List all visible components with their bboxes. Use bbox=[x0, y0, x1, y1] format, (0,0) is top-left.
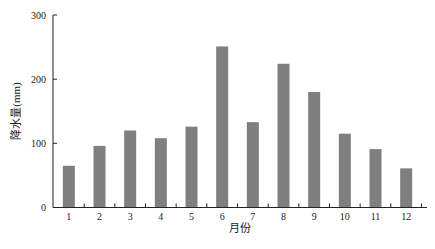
x-tick-label: 12 bbox=[401, 211, 411, 222]
bar-chart: 0100200300 123456789101112 月份 降水量(mm) bbox=[0, 0, 435, 249]
bar-month-12 bbox=[400, 168, 412, 207]
bars-group bbox=[63, 46, 412, 207]
bar-month-7 bbox=[247, 122, 259, 207]
bar-month-3 bbox=[124, 131, 136, 208]
bar-month-6 bbox=[216, 46, 228, 207]
x-tick-label: 11 bbox=[371, 211, 381, 222]
x-ticks-group: 123456789101112 bbox=[66, 204, 421, 223]
bar-month-9 bbox=[308, 92, 320, 208]
bar-month-8 bbox=[278, 64, 290, 208]
bar-month-11 bbox=[370, 149, 382, 207]
x-tick-label: 4 bbox=[158, 211, 163, 222]
x-tick-label: 10 bbox=[340, 211, 350, 222]
bar-month-1 bbox=[63, 166, 75, 208]
x-tick-label: 8 bbox=[281, 211, 286, 222]
y-tick-label: 0 bbox=[41, 202, 46, 213]
y-tick-label: 100 bbox=[31, 138, 46, 149]
x-tick-label: 3 bbox=[128, 211, 133, 222]
y-axis-title: 降水量(mm) bbox=[9, 82, 23, 140]
bar-month-4 bbox=[155, 138, 167, 207]
bar-month-10 bbox=[339, 134, 351, 208]
y-tick-label: 200 bbox=[31, 74, 46, 85]
y-tick-label: 300 bbox=[31, 10, 46, 21]
bar-month-2 bbox=[94, 146, 106, 208]
x-tick-label: 6 bbox=[220, 211, 225, 222]
bar-month-5 bbox=[186, 127, 198, 208]
x-tick-label: 1 bbox=[66, 211, 71, 222]
x-tick-label: 5 bbox=[189, 211, 194, 222]
x-tick-label: 7 bbox=[250, 211, 255, 222]
x-axis-title: 月份 bbox=[229, 222, 251, 234]
x-tick-label: 2 bbox=[97, 211, 102, 222]
x-tick-label: 9 bbox=[312, 211, 317, 222]
